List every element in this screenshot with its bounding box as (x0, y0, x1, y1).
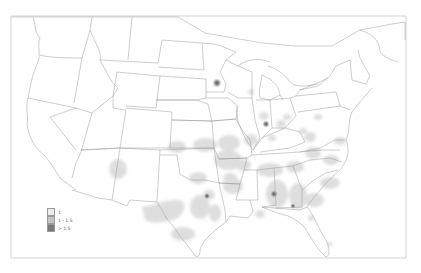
us-choropleth-map (0, 0, 421, 273)
legend-label-mid: 1 - 1.5 (58, 218, 73, 223)
map-legend: 1 1 - 1.5 > 1.5 (47, 208, 73, 232)
legend-item-high: > 1.5 (47, 224, 73, 232)
density-regions (109, 89, 346, 246)
legend-swatch-high (47, 224, 55, 232)
legend-label-low: 1 (58, 210, 61, 215)
legend-label-high: > 1.5 (58, 226, 70, 231)
legend-item-mid: 1 - 1.5 (47, 216, 73, 224)
legend-item-low: 1 (47, 208, 73, 216)
legend-swatch-low (47, 208, 55, 216)
legend-swatch-mid (47, 216, 55, 224)
